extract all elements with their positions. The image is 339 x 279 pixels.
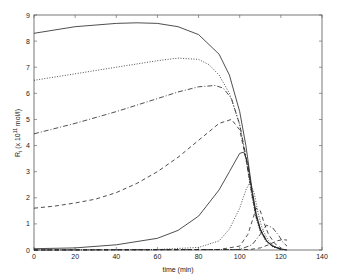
x-tick-label: 120 [275,253,287,260]
y-tick-label: 8 [26,38,30,45]
x-tick-label: 140 [316,253,328,260]
y-tick-label: 6 [26,90,30,97]
y-tick-label: 1 [26,220,30,227]
x-tick-label: 80 [195,253,203,260]
y-axis-label: Ri (x 1011 mol/l) [12,109,23,157]
y-tick-label: 3 [26,168,30,175]
x-tick-label: 20 [71,253,79,260]
y-tick-label: 0 [26,247,30,254]
x-tick-label: 100 [234,253,246,260]
y-tick-label: 2 [26,194,30,201]
x-axis-label: time (min) [162,266,193,274]
y-tick-label: 9 [26,12,30,19]
y-tick-label: 7 [26,64,30,71]
x-tick-label: 60 [154,253,162,260]
line-chart: 0204060801001201400123456789 time (min) … [0,0,339,279]
y-tick-label: 4 [26,142,30,149]
x-tick-label: 0 [32,253,36,260]
y-tick-label: 5 [26,116,30,123]
x-tick-label: 40 [112,253,120,260]
plot-area [34,15,322,250]
